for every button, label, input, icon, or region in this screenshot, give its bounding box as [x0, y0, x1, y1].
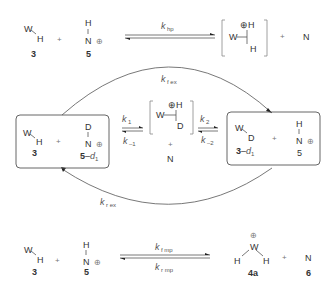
svg-text:H: H — [250, 44, 257, 54]
svg-text:W: W — [24, 24, 33, 34]
svg-text:k: k — [155, 242, 160, 252]
svg-text:W: W — [156, 110, 165, 120]
left-box-3-5d1: W H 3 + D N ⊕ 5–d1 — [16, 115, 109, 168]
amine-N: N — [303, 32, 310, 42]
svg-text:k: k — [161, 74, 166, 84]
svg-text:W: W — [23, 128, 32, 138]
svg-text:k: k — [161, 21, 166, 31]
svg-text:H: H — [36, 137, 43, 147]
svg-text:3–d1: 3–d1 — [236, 146, 255, 157]
svg-text:⊕H: ⊕H — [168, 100, 183, 110]
positive-charge-icon: ⊕ — [96, 37, 103, 46]
svg-text:6: 6 — [306, 268, 311, 278]
svg-text:N: N — [296, 136, 303, 146]
svg-text:f ex: f ex — [167, 79, 177, 85]
svg-text:k: k — [123, 136, 128, 146]
positive-charge-icon: ⊕ — [307, 137, 314, 146]
equilibrium-arrow-mp: k f mp k r mp — [120, 242, 210, 273]
right-box-3d1-5: W D 3–d1 + H N ⊕ 5 — [227, 112, 320, 165]
svg-text:W: W — [229, 32, 238, 42]
svg-text:4a: 4a — [248, 268, 259, 278]
svg-text:H: H — [263, 256, 270, 266]
compound-5-top: H N ⊕ 5 — [85, 18, 103, 59]
svg-text:D: D — [248, 133, 255, 143]
svg-text:2: 2 — [206, 119, 210, 125]
svg-text:–1: –1 — [129, 141, 136, 147]
plus-sign: + — [55, 256, 60, 265]
reverse-exchange-arc — [62, 168, 272, 204]
equilibrium-arrow-khp: k hp — [125, 21, 215, 40]
bottom-row: W H 3 + H N ⊕ 5 k f mp k r mp ⊕ W — [24, 231, 312, 278]
svg-text:k: k — [122, 114, 127, 124]
svg-text:D: D — [85, 122, 92, 132]
svg-text:r ex: r ex — [106, 202, 116, 208]
svg-text:⊕H: ⊕H — [240, 20, 255, 30]
svg-text:3: 3 — [32, 148, 37, 158]
svg-text:+: + — [56, 137, 61, 146]
svg-text:H: H — [37, 34, 44, 44]
svg-text:5–d1: 5–d1 — [80, 151, 99, 162]
svg-text:N: N — [85, 139, 92, 149]
svg-text:5: 5 — [86, 49, 91, 59]
svg-text:N: N — [305, 253, 312, 263]
forward-exchange-arc — [62, 67, 272, 115]
plus-sign: + — [280, 32, 285, 41]
svg-text:H: H — [83, 240, 90, 250]
svg-text:W: W — [250, 242, 259, 252]
svg-text:N: N — [83, 257, 90, 267]
svg-text:f mp: f mp — [161, 247, 173, 253]
svg-text:D: D — [177, 121, 184, 131]
svg-text:hp: hp — [167, 26, 174, 32]
svg-text:k: k — [200, 114, 205, 124]
svg-text:1: 1 — [128, 119, 132, 125]
plus-sign: + — [282, 253, 287, 262]
svg-text:k: k — [155, 262, 160, 272]
svg-text:k: k — [100, 197, 105, 207]
svg-text:3: 3 — [31, 49, 36, 59]
svg-text:+: + — [272, 134, 277, 143]
svg-text:–2: –2 — [207, 140, 214, 146]
intermediate-complex: W ⊕H D + N — [150, 100, 193, 164]
svg-text:5: 5 — [84, 267, 89, 277]
hydride-adduct-product: W ⊕H H — [222, 20, 267, 56]
svg-text:k: k — [201, 135, 206, 145]
svg-text:H: H — [37, 255, 44, 265]
svg-text:5: 5 — [297, 148, 302, 158]
reaction-scheme: W H 3 + H N ⊕ 5 k hp W ⊕H H — [0, 0, 336, 287]
positive-charge-icon: ⊕ — [96, 140, 103, 149]
svg-text:N: N — [167, 154, 174, 164]
top-row: W H 3 + H N ⊕ 5 k hp W ⊕H H — [24, 18, 310, 59]
plus-sign: + — [57, 35, 62, 44]
compound-6: N 6 — [305, 253, 312, 278]
compound-4a: ⊕ W H H 4a — [234, 231, 270, 278]
equilibrium-arrow-k1: k 1 k –1 — [122, 114, 143, 147]
svg-text:r mp: r mp — [161, 267, 174, 273]
positive-charge-icon: ⊕ — [94, 258, 101, 267]
compound-3-top: W H 3 — [24, 24, 44, 59]
equilibrium-arrow-k2: k 2 k –2 — [198, 114, 218, 146]
compound-3-bottom: W H 3 — [24, 245, 44, 277]
svg-text:H: H — [296, 119, 303, 129]
svg-text:W: W — [235, 123, 244, 133]
svg-text:3: 3 — [32, 267, 37, 277]
svg-text:W: W — [24, 245, 33, 255]
svg-text:+: + — [168, 140, 173, 149]
svg-text:H: H — [234, 256, 241, 266]
compound-5-bottom: H N ⊕ 5 — [83, 240, 101, 277]
svg-text:H: H — [85, 18, 92, 28]
svg-text:N: N — [85, 36, 92, 46]
positive-charge-icon: ⊕ — [250, 231, 257, 240]
